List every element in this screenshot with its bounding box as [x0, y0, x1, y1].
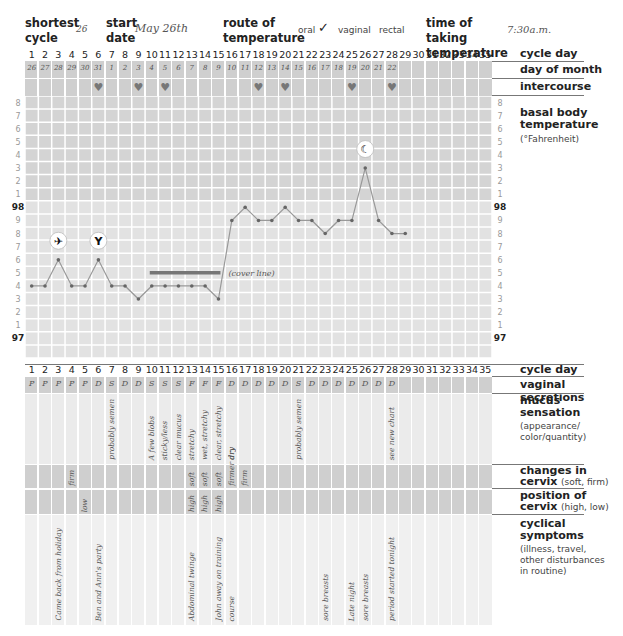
secretion-cell[interactable]: P — [65, 379, 78, 388]
bbt-data-point[interactable] — [403, 232, 407, 236]
bbt-data-point[interactable] — [257, 219, 261, 223]
handwritten-note[interactable]: stretchy — [187, 429, 196, 460]
handwritten-note[interactable]: soft — [187, 472, 196, 486]
day-of-month-cell[interactable]: 4 — [145, 64, 158, 72]
bbt-data-point[interactable] — [97, 258, 101, 262]
day-of-month-cell[interactable]: 7 — [185, 64, 198, 72]
bbt-data-point[interactable] — [190, 284, 194, 288]
secretion-cell[interactable]: S — [292, 379, 305, 388]
handwritten-note[interactable]: sore breasts — [361, 574, 370, 621]
day-of-month-cell[interactable]: 31 — [92, 64, 105, 72]
heart-icon[interactable]: ♥ — [132, 81, 145, 94]
secretion-cell[interactable]: D — [118, 379, 131, 388]
time-value[interactable]: 7:30a.m. — [507, 24, 551, 35]
bbt-data-point[interactable] — [123, 284, 127, 288]
bbt-data-point[interactable] — [350, 219, 354, 223]
bbt-data-point[interactable] — [310, 219, 314, 223]
heart-icon[interactable]: ♥ — [385, 81, 398, 94]
day-of-month-cell[interactable]: 5 — [158, 64, 171, 72]
secretion-cell[interactable]: F — [185, 379, 198, 388]
handwritten-note[interactable]: A few blobs — [147, 416, 156, 460]
day-of-month-cell[interactable]: 29 — [65, 64, 78, 72]
secretion-cell[interactable]: D — [319, 379, 332, 388]
secretion-cell[interactable]: P — [52, 379, 65, 388]
bbt-data-point[interactable] — [43, 284, 47, 288]
secretion-cell[interactable]: D — [132, 379, 145, 388]
handwritten-note[interactable]: firm — [240, 470, 249, 486]
day-of-month-cell[interactable]: 26 — [25, 64, 38, 72]
day-of-month-cell[interactable]: 15 — [292, 64, 305, 72]
day-of-month-cell[interactable]: 22 — [385, 64, 398, 72]
secretion-cell[interactable]: S — [158, 379, 171, 388]
secretion-cell[interactable]: F — [198, 379, 211, 388]
handwritten-note[interactable]: clear, stretchy — [214, 406, 223, 460]
day-of-month-cell[interactable]: 20 — [359, 64, 372, 72]
handwritten-note[interactable]: John away on training — [214, 537, 223, 621]
bbt-data-point[interactable] — [377, 219, 381, 223]
secretion-cell[interactable]: S — [105, 379, 118, 388]
secretion-cell[interactable]: D — [265, 379, 278, 388]
handwritten-note[interactable]: probably semen — [294, 399, 303, 460]
secretion-cell[interactable]: D — [279, 379, 292, 388]
secretion-cell[interactable]: D — [359, 379, 372, 388]
handwritten-note[interactable]: clear mucus — [174, 414, 183, 460]
day-of-month-cell[interactable]: 14 — [279, 64, 292, 72]
bbt-data-point[interactable] — [177, 284, 181, 288]
handwritten-note[interactable]: high — [214, 495, 223, 512]
handwritten-note[interactable]: see new chart — [387, 407, 396, 460]
secretion-cell[interactable]: D — [238, 379, 251, 388]
secretion-cell[interactable]: S — [145, 379, 158, 388]
day-of-month-cell[interactable]: 3 — [132, 64, 145, 72]
secretion-cell[interactable]: D — [92, 379, 105, 388]
heart-icon[interactable]: ♥ — [345, 81, 358, 94]
secretion-cell[interactable]: P — [38, 379, 51, 388]
secretion-cell[interactable]: D — [385, 379, 398, 388]
day-of-month-cell[interactable]: 27 — [38, 64, 51, 72]
handwritten-note[interactable]: probably semen — [107, 399, 116, 460]
bbt-data-point[interactable] — [70, 284, 74, 288]
day-of-month-cell[interactable]: 30 — [78, 64, 91, 72]
bbt-data-point[interactable] — [297, 219, 301, 223]
secretion-cell[interactable]: P — [78, 379, 91, 388]
heart-icon[interactable]: ♥ — [92, 81, 105, 94]
bbt-data-point[interactable] — [363, 166, 367, 170]
secretion-cell[interactable]: D — [225, 379, 238, 388]
secretion-cell[interactable]: D — [332, 379, 345, 388]
shortest-cycle-value[interactable]: 26 — [76, 24, 87, 34]
bbt-data-point[interactable] — [83, 284, 87, 288]
day-of-month-cell[interactable]: 6 — [172, 64, 185, 72]
handwritten-note[interactable]: soft — [200, 472, 209, 486]
handwritten-note[interactable]: high — [200, 495, 209, 512]
day-of-month-cell[interactable]: 11 — [238, 64, 251, 72]
handwritten-note[interactable]: high — [187, 495, 196, 512]
handwritten-note[interactable]: firm — [67, 470, 76, 486]
bbt-data-point[interactable] — [137, 297, 141, 301]
bbt-data-point[interactable] — [30, 284, 34, 288]
handwritten-note[interactable]: soft — [214, 472, 223, 486]
route-option-vaginal[interactable]: vaginal — [338, 25, 371, 35]
day-of-month-cell[interactable]: 13 — [265, 64, 278, 72]
handwritten-note[interactable]: Abdominal twinge — [187, 552, 196, 621]
handwritten-note[interactable]: sore breasts — [321, 574, 330, 621]
secretion-cell[interactable]: D — [345, 379, 358, 388]
bbt-data-point[interactable] — [323, 232, 327, 236]
day-of-month-cell[interactable]: 1 — [105, 64, 118, 72]
heart-icon[interactable]: ♥ — [158, 81, 171, 94]
bbt-data-point[interactable] — [203, 284, 207, 288]
bbt-data-point[interactable] — [163, 284, 167, 288]
day-of-month-cell[interactable]: 16 — [305, 64, 318, 72]
bbt-data-point[interactable] — [337, 219, 341, 223]
bbt-data-point[interactable] — [270, 219, 274, 223]
bbt-data-point[interactable] — [110, 284, 114, 288]
handwritten-note[interactable]: course — [227, 596, 236, 621]
secretion-cell[interactable]: P — [25, 379, 38, 388]
day-of-month-cell[interactable]: 8 — [198, 64, 211, 72]
bbt-data-point[interactable] — [390, 232, 394, 236]
bbt-data-point[interactable] — [230, 219, 234, 223]
bbt-data-point[interactable] — [150, 284, 154, 288]
day-of-month-cell[interactable]: 12 — [252, 64, 265, 72]
handwritten-note[interactable]: Late night — [347, 582, 356, 621]
handwritten-note[interactable]: Came back from holiday — [54, 528, 63, 621]
handwritten-note[interactable]: firmer dry — [227, 447, 236, 486]
day-of-month-cell[interactable]: 10 — [225, 64, 238, 72]
